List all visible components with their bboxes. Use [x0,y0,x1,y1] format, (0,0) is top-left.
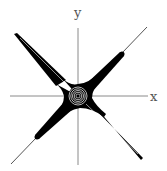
nw-arm [14,33,66,86]
se-highlight [86,104,138,154]
ne-thin-line [122,27,147,53]
y-axis-label: y [73,5,82,20]
sw-thin-line [11,138,36,164]
center-dot [77,95,79,97]
x-axis-label: x [150,89,158,104]
sw-arm [35,102,74,139]
ne-arm [84,52,124,92]
nw-highlight [20,38,70,88]
diagram-figure: y x [0,0,167,171]
